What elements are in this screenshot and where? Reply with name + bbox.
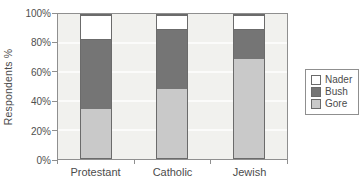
- legend-label-nader: Nader: [325, 75, 352, 85]
- legend-label-bush: Bush: [325, 87, 348, 97]
- legend-swatch-gore: [311, 99, 321, 109]
- x-tick-mark-1: [134, 160, 135, 164]
- segment-nader-jewish: [234, 15, 264, 29]
- bar-slot-jewish: [211, 14, 287, 159]
- x-label-protestant: Protestant: [57, 166, 134, 178]
- bar-slot-catholic: [134, 14, 210, 159]
- x-category-labels: ProtestantCatholicJewish: [57, 166, 288, 178]
- legend-item-bush: Bush: [311, 87, 352, 97]
- x-tick-mark-2: [210, 160, 211, 164]
- legend-label-gore: Gore: [325, 99, 347, 109]
- legend-swatch-bush: [311, 87, 321, 97]
- plot-area: [57, 13, 288, 160]
- bar-jewish: [233, 14, 265, 159]
- y-tick-marks: [0, 13, 57, 160]
- bar-slot-protestant: [58, 14, 134, 159]
- x-tick-mark-3: [287, 160, 288, 164]
- x-label-catholic: Catholic: [134, 166, 211, 178]
- segment-gore-protestant: [81, 109, 111, 158]
- bar-catholic: [156, 14, 188, 159]
- legend-item-gore: Gore: [311, 99, 352, 109]
- x-label-jewish: Jewish: [211, 166, 288, 178]
- segment-nader-catholic: [157, 15, 187, 29]
- segment-gore-catholic: [157, 89, 187, 158]
- segment-gore-jewish: [234, 59, 264, 158]
- legend-item-nader: Nader: [311, 75, 352, 85]
- bar-protestant: [80, 14, 112, 159]
- segment-bush-jewish: [234, 29, 264, 59]
- segment-nader-protestant: [81, 15, 111, 39]
- x-tick-mark-0: [57, 160, 58, 164]
- x-tick-marks: [57, 159, 288, 165]
- legend: NaderBushGore: [305, 69, 359, 115]
- stacked-bar-chart: Respondents % 0%20%40%60%80%100% Protest…: [0, 0, 363, 190]
- segment-bush-catholic: [157, 29, 187, 89]
- legend-swatch-nader: [311, 75, 321, 85]
- segment-bush-protestant: [81, 39, 111, 109]
